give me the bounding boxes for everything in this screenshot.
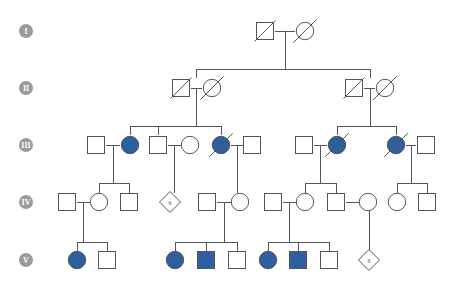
symbol-female-affected[interactable] (259, 251, 276, 268)
individual-V-3[interactable] (166, 251, 183, 268)
symbol-female-affected[interactable] (166, 251, 183, 268)
individual-V-5[interactable] (229, 252, 246, 269)
symbol-female-unaffected[interactable] (231, 193, 248, 210)
individual-IV-3[interactable] (121, 194, 138, 211)
symbol-female-unaffected[interactable] (359, 193, 376, 210)
symbol-male-unaffected[interactable] (88, 137, 105, 154)
individual-V-9[interactable]: 6 (359, 250, 380, 271)
symbol-male-affected[interactable] (290, 252, 307, 269)
symbol-female-affected[interactable] (121, 136, 138, 153)
individual-III-8[interactable] (325, 133, 348, 156)
symbol-male-affected[interactable] (198, 252, 215, 269)
individual-IV-8[interactable] (296, 193, 313, 210)
generation-badge-IV: IV (19, 195, 33, 209)
symbol-male-unaffected[interactable] (121, 194, 138, 211)
individual-III-3[interactable] (150, 137, 167, 154)
individual-IV-9[interactable] (328, 194, 345, 211)
symbol-female-unaffected[interactable] (90, 193, 107, 210)
symbol-male-unaffected[interactable] (328, 194, 345, 211)
pedigree-chart: 66 IIIIIIIVV (0, 0, 467, 288)
generation-badge-label: I (24, 27, 27, 36)
individual-II-4[interactable] (373, 76, 396, 99)
individual-V-2[interactable] (99, 252, 116, 269)
individual-III-4[interactable] (181, 136, 198, 153)
individual-IV-12[interactable] (419, 194, 436, 211)
symbol-male-unaffected[interactable] (229, 252, 246, 269)
generation-badge-V: V (19, 253, 33, 267)
individual-III-7[interactable] (296, 137, 313, 154)
sibling-count-label: 6 (368, 258, 371, 264)
individual-II-3[interactable] (344, 78, 365, 99)
individual-IV-1[interactable] (59, 194, 76, 211)
generation-badge-II: II (19, 81, 33, 95)
generation-badge-label: II (23, 84, 29, 93)
symbol-female-unaffected[interactable] (388, 193, 405, 210)
individual-V-4[interactable] (198, 252, 215, 269)
individual-III-2[interactable] (121, 136, 138, 153)
symbol-female-affected[interactable] (68, 251, 85, 268)
individual-V-1[interactable] (68, 251, 85, 268)
individual-III-5[interactable] (209, 133, 232, 156)
generation-badge-label: V (23, 256, 29, 265)
symbol-male-unaffected[interactable] (419, 194, 436, 211)
symbol-male-unaffected[interactable] (265, 194, 282, 211)
symbol-male-unaffected[interactable] (150, 137, 167, 154)
individual-II-2[interactable] (200, 76, 223, 99)
individual-III-9[interactable] (384, 133, 407, 156)
individual-II-1[interactable] (171, 78, 192, 99)
individual-IV-2[interactable] (90, 193, 107, 210)
generation-badges-layer: IIIIIIIVV (19, 24, 33, 267)
individual-V-8[interactable] (321, 252, 338, 269)
individual-I-1[interactable] (255, 21, 276, 42)
pedigree-canvas: 66 IIIIIIIVV (0, 0, 467, 288)
symbol-male-unaffected[interactable] (59, 194, 76, 211)
generation-badge-label: IV (22, 198, 31, 207)
individual-IV-10[interactable] (359, 193, 376, 210)
generation-badge-label: III (21, 141, 30, 150)
symbol-male-unaffected[interactable] (418, 137, 435, 154)
generation-badge-I: I (19, 24, 33, 38)
individual-III-1[interactable] (88, 137, 105, 154)
symbol-female-unaffected[interactable] (181, 136, 198, 153)
individual-V-6[interactable] (259, 251, 276, 268)
individual-IV-11[interactable] (388, 193, 405, 210)
individual-V-7[interactable] (290, 252, 307, 269)
symbol-male-unaffected[interactable] (244, 137, 261, 154)
individual-IV-6[interactable] (231, 193, 248, 210)
individual-III-10[interactable] (418, 137, 435, 154)
individual-IV-4[interactable]: 6 (160, 192, 181, 213)
individual-IV-7[interactable] (265, 194, 282, 211)
generation-badge-III: III (19, 138, 33, 152)
individual-III-6[interactable] (244, 137, 261, 154)
symbol-male-unaffected[interactable] (99, 252, 116, 269)
individual-IV-5[interactable] (199, 194, 216, 211)
sibling-count-label: 6 (169, 200, 172, 206)
symbol-female-unaffected[interactable] (296, 193, 313, 210)
symbol-male-unaffected[interactable] (199, 194, 216, 211)
symbol-male-unaffected[interactable] (321, 252, 338, 269)
symbol-male-unaffected[interactable] (296, 137, 313, 154)
individual-I-2[interactable] (293, 19, 316, 42)
